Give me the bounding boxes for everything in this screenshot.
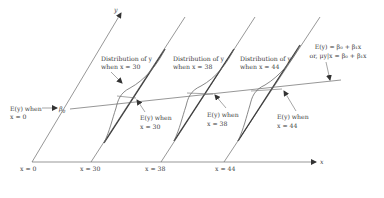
dist-label-x44-line1: Distribution of y [240,55,292,63]
ey-label-x44-line2: x = 44 [277,122,298,129]
ey-label-x44-line1: E(y) when [277,113,309,121]
dist-label-x44-line2: when x = 44 [240,63,279,70]
regression-eq-line1: E(y) = β₀ + β₁x [315,43,362,51]
intercept-label-line2: x = 0 [10,113,27,120]
ey-pointer-x38 [215,95,226,108]
dist-label-x30-line2: when x = 30 [101,63,140,70]
x-tick-44: x = 44 [215,165,236,172]
intercept-label-line1: E(y) when [10,105,42,113]
dist-label-x30-line1: Distribution of y [101,55,153,63]
y-axis-label: y [113,6,118,14]
regression-diagram: x y Distribution of y when x = 30 Distri… [0,0,384,198]
dist-label-x38-line1: Distribution of y [173,55,225,63]
ey-label-x38-line2: x = 38 [207,120,228,127]
regression-line [70,80,341,109]
ey-pointer-x44 [284,91,296,111]
x-tick-38: x = 38 [145,165,166,172]
dist-label-x38-line2: when x = 38 [173,63,212,70]
ey-label-x38-line1: E(y) when [207,111,239,119]
ey-pointer-x30 [137,100,145,112]
regression-eq-pointer [326,62,330,80]
ey-label-x30-line2: x = 30 [140,123,161,130]
y-axis [32,13,121,162]
x-tick-30: x = 30 [80,165,101,172]
regression-eq-line2: or, μy|x = β₀ + β₁x [310,52,367,60]
x-axis-label: x [320,158,324,165]
ey-label-x30-line1: E(y) when [140,114,172,122]
dist-pointer-x30 [111,72,122,83]
beta0-symbol: β0 [58,105,66,114]
x-tick-0: x = 0 [20,165,37,172]
